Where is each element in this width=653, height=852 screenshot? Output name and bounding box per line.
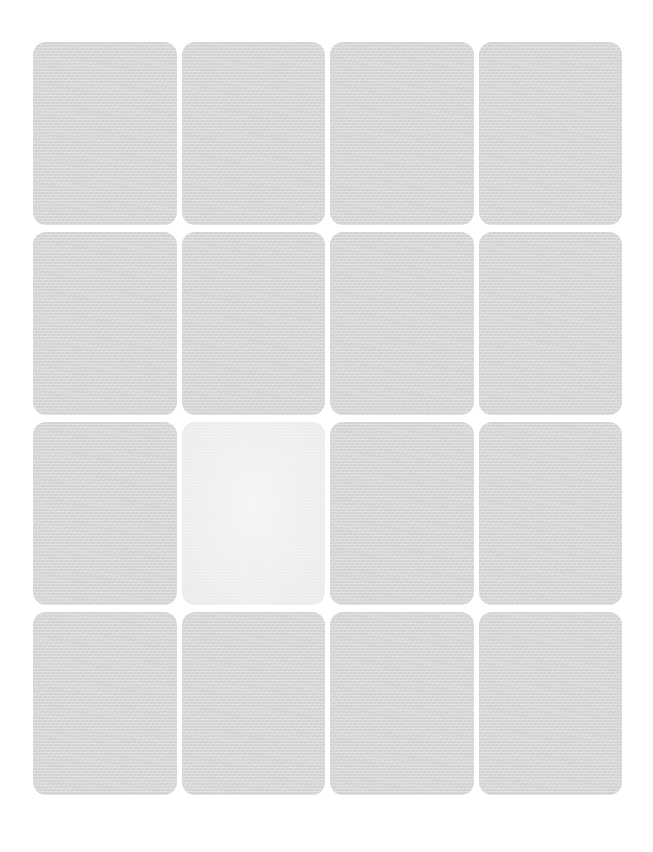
grid-tile[interactable]	[330, 422, 474, 605]
grid-tile[interactable]	[330, 232, 474, 415]
grid-tile[interactable]	[479, 232, 623, 415]
grid-tile-highlighted[interactable]	[182, 422, 326, 605]
grid-tile[interactable]	[182, 232, 326, 415]
grid-tile[interactable]	[479, 422, 623, 605]
grid-tile[interactable]	[33, 422, 177, 605]
grid-tile[interactable]	[330, 612, 474, 795]
tile-grid	[33, 42, 622, 795]
grid-tile[interactable]	[33, 232, 177, 415]
grid-tile[interactable]	[479, 612, 623, 795]
grid-tile[interactable]	[330, 42, 474, 225]
grid-tile[interactable]	[182, 612, 326, 795]
grid-tile[interactable]	[33, 612, 177, 795]
grid-tile[interactable]	[33, 42, 177, 225]
grid-tile[interactable]	[479, 42, 623, 225]
grid-tile[interactable]	[182, 42, 326, 225]
